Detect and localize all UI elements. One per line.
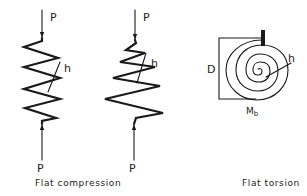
spring-coil bbox=[105, 40, 163, 124]
caption-torsion: Flat torsion bbox=[242, 178, 300, 188]
moment-label: Mb bbox=[246, 106, 259, 118]
thickness-indicator bbox=[137, 53, 146, 83]
load-label-bottom: P bbox=[37, 162, 44, 175]
thickness-label: h bbox=[288, 52, 295, 65]
compression-spring-conical: P h P bbox=[105, 10, 163, 175]
spring-coil bbox=[24, 38, 60, 124]
caption-compression: Flat compression bbox=[35, 178, 121, 188]
mounting-post bbox=[261, 30, 265, 46]
diameter-dimension-line bbox=[219, 38, 262, 99]
load-label-bottom: P bbox=[129, 162, 136, 175]
compression-spring-cylindrical: P h P bbox=[24, 10, 71, 175]
torsion-spring-spiral: D h Mb bbox=[207, 30, 295, 118]
moment-label-main: M bbox=[246, 106, 254, 116]
thickness-label: h bbox=[151, 57, 158, 70]
load-label-top: P bbox=[50, 11, 57, 24]
thickness-label: h bbox=[64, 62, 71, 75]
diameter-label: D bbox=[207, 63, 215, 76]
load-label-top: P bbox=[143, 11, 150, 24]
spring-diagram: P h P P h P Flat compression D h Mb F bbox=[0, 0, 307, 196]
moment-label-sub: b bbox=[254, 110, 259, 118]
